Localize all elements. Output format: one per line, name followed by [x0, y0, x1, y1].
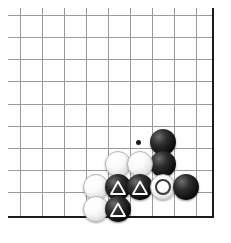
triangle-marker-icon: [131, 179, 149, 197]
go-board-diagram: [0, 0, 231, 243]
goban[interactable]: [0, 0, 231, 243]
grid-line-horizontal: [8, 37, 212, 38]
grid-line-horizontal: [8, 104, 212, 105]
grid-line-vertical: [20, 8, 21, 216]
triangle-marker-icon: [109, 179, 127, 197]
circle-marker-icon: [155, 179, 171, 195]
grid-line-vertical: [42, 8, 43, 216]
grid-line-horizontal: [8, 81, 212, 82]
grid-line-vertical: [64, 8, 65, 216]
triangle-marker-icon: [109, 201, 127, 219]
black-stone-triangle[interactable]: [105, 196, 131, 222]
grid-line-horizontal: [8, 15, 212, 16]
grid-line-horizontal: [8, 126, 212, 127]
grid-line-horizontal: [8, 148, 212, 149]
star-point-icon: [136, 140, 141, 145]
black-stone[interactable]: [173, 174, 199, 200]
board-edge-right: [212, 8, 214, 218]
grid-line-horizontal: [8, 59, 212, 60]
